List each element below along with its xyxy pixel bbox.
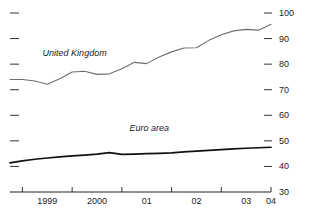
y-axis-tick-label: 40 (279, 161, 289, 171)
y-axis-tick-label: 80 (279, 59, 289, 69)
chart-container: 10090807060504030 1999200001020304 Unite… (0, 0, 313, 210)
right-tick-marks (264, 13, 272, 166)
y-axis-tick-label: 90 (279, 34, 289, 44)
bottom-tick-marks (22, 187, 271, 192)
series-label-euro-area: Euro area (129, 123, 169, 133)
x-axis-tick-label: 04 (241, 196, 301, 206)
y-axis-tick-label: 50 (279, 136, 289, 146)
y-axis-tick-label: 60 (279, 110, 289, 120)
series-label-united-kingdom: United Kingdom (43, 48, 107, 58)
y-axis-tick-label: 100 (279, 8, 294, 18)
left-tick-marks (10, 13, 19, 166)
line-chart-plot (0, 0, 313, 210)
series-line-euro-area (10, 147, 271, 163)
y-axis-tick-label: 70 (279, 85, 289, 95)
